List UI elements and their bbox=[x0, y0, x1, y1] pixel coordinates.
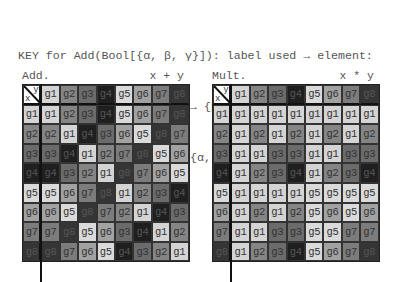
header-column-divider bbox=[40, 84, 42, 282]
table-cell: g3 bbox=[268, 242, 286, 262]
table-cell: g1 bbox=[323, 144, 341, 164]
table-cell: g1 bbox=[305, 124, 323, 144]
table-cell: g8 bbox=[97, 183, 115, 203]
table-cell: g5 bbox=[305, 242, 323, 262]
table-cell: g6 bbox=[78, 242, 96, 262]
corner-x-label: x bbox=[25, 94, 30, 104]
table-cell: g1 bbox=[60, 124, 78, 144]
column-header: g7 bbox=[342, 85, 360, 105]
table-cell: g1 bbox=[78, 144, 96, 164]
table-cell: g1 bbox=[231, 163, 249, 183]
table-cell: g6 bbox=[133, 105, 151, 125]
table-cell: g1 bbox=[305, 144, 323, 164]
column-header: g3 bbox=[268, 85, 286, 105]
table-cell: g5 bbox=[115, 105, 133, 125]
row-header: g8 bbox=[213, 242, 231, 262]
table-cell: g7 bbox=[60, 242, 78, 262]
table-cell: g3 bbox=[97, 124, 115, 144]
table-cell: g7 bbox=[342, 222, 360, 242]
table-cell: g1 bbox=[231, 144, 249, 164]
table-cell: g3 bbox=[268, 222, 286, 242]
table-cell: g6 bbox=[41, 203, 59, 223]
table-cell: g8 bbox=[133, 144, 151, 164]
table-cell: g8 bbox=[41, 242, 59, 262]
table-cell: g4 bbox=[78, 124, 96, 144]
add-cayley-table: yxg1g2g3g4g5g6g7g8g1g1g2g3g4g5g6g7g8g2g2… bbox=[22, 84, 190, 262]
table-cell: g8 bbox=[78, 203, 96, 223]
table-cell: g7 bbox=[78, 183, 96, 203]
mult-table-title: Mult. bbox=[212, 69, 247, 82]
table-cell: g1 bbox=[305, 163, 323, 183]
table-cell: g4 bbox=[133, 222, 151, 242]
table-cell: g8 bbox=[360, 242, 378, 262]
table-cell: g2 bbox=[250, 203, 268, 223]
table-cell: g5 bbox=[78, 222, 96, 242]
table-cell: g4 bbox=[115, 242, 133, 262]
column-header: g1 bbox=[41, 85, 59, 105]
table-cell: g8 bbox=[170, 105, 188, 125]
table-cell: g5 bbox=[305, 203, 323, 223]
corner-cell: yx bbox=[23, 85, 41, 105]
table-cell: g5 bbox=[97, 242, 115, 262]
corner-y-label: y bbox=[223, 85, 228, 95]
table-cell: g1 bbox=[250, 222, 268, 242]
table-cell: g2 bbox=[152, 242, 170, 262]
table-cell: g6 bbox=[97, 222, 115, 242]
table-cell: g1 bbox=[342, 124, 360, 144]
corner-y-label: y bbox=[33, 85, 38, 95]
table-cell: g5 bbox=[323, 222, 341, 242]
table-cell: g6 bbox=[152, 163, 170, 183]
table-cell: g7 bbox=[170, 124, 188, 144]
table-cell: g6 bbox=[360, 203, 378, 223]
table-cell: g2 bbox=[323, 124, 341, 144]
row-header: g1 bbox=[213, 105, 231, 125]
table-cell: g2 bbox=[360, 124, 378, 144]
table-cell: g3 bbox=[360, 144, 378, 164]
table-cell: g6 bbox=[170, 144, 188, 164]
add-table-operation: x + y bbox=[149, 69, 184, 82]
table-cell: g1 bbox=[268, 105, 286, 125]
table-cell: g1 bbox=[231, 124, 249, 144]
row-header: g1 bbox=[23, 105, 41, 125]
table-cell: g2 bbox=[323, 163, 341, 183]
table-cell: g1 bbox=[268, 183, 286, 203]
table-cell: g2 bbox=[41, 124, 59, 144]
table-cell: g3 bbox=[342, 144, 360, 164]
row-header: g3 bbox=[213, 144, 231, 164]
table-cell: g1 bbox=[250, 144, 268, 164]
table-cell: g6 bbox=[323, 203, 341, 223]
table-cell: g6 bbox=[115, 124, 133, 144]
row-header: g5 bbox=[213, 183, 231, 203]
column-header: g1 bbox=[231, 85, 249, 105]
row-header: g4 bbox=[23, 163, 41, 183]
table-cell: g5 bbox=[41, 183, 59, 203]
table-cell: g1 bbox=[305, 105, 323, 125]
table-cell: g7 bbox=[115, 144, 133, 164]
table-cell: g7 bbox=[133, 163, 151, 183]
table-cell: g5 bbox=[170, 163, 188, 183]
table-cell: g4 bbox=[360, 163, 378, 183]
corner-cell: yx bbox=[213, 85, 231, 105]
table-cell: g1 bbox=[231, 183, 249, 203]
row-header: g4 bbox=[213, 163, 231, 183]
table-cell: g1 bbox=[250, 105, 268, 125]
table-cell: g1 bbox=[287, 105, 305, 125]
column-header: g8 bbox=[170, 85, 188, 105]
table-cell: g1 bbox=[231, 105, 249, 125]
table-cell: g5 bbox=[60, 203, 78, 223]
table-cell: g3 bbox=[41, 144, 59, 164]
table-cell: g3 bbox=[115, 222, 133, 242]
table-cell: g1 bbox=[115, 183, 133, 203]
table-cell: g3 bbox=[60, 163, 78, 183]
table-cell: g5 bbox=[305, 183, 323, 203]
row-header: g7 bbox=[213, 222, 231, 242]
table-cell: g2 bbox=[250, 124, 268, 144]
table-cell: g1 bbox=[342, 105, 360, 125]
column-header: g7 bbox=[152, 85, 170, 105]
table-cell: g1 bbox=[250, 183, 268, 203]
table-cell: g3 bbox=[287, 144, 305, 164]
table-cell: g5 bbox=[360, 183, 378, 203]
table-cell: g4 bbox=[287, 242, 305, 262]
header-column-divider bbox=[230, 84, 232, 282]
row-header: g5 bbox=[23, 183, 41, 203]
